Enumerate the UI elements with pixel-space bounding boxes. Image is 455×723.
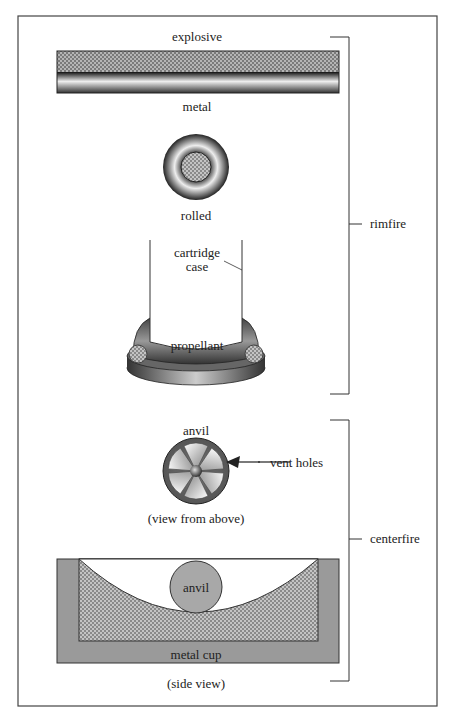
anvil-top-view bbox=[163, 438, 229, 504]
explosive-label: explosive bbox=[172, 29, 222, 44]
anvil-top-label: anvil bbox=[183, 423, 209, 438]
view-from-above-label: (view from above) bbox=[148, 511, 245, 526]
rolled-ring bbox=[163, 134, 229, 200]
side-view-label: (side view) bbox=[167, 676, 225, 691]
anvil-side-label: anvil bbox=[183, 580, 209, 595]
metal-label: metal bbox=[183, 99, 212, 114]
centerfire-label: centerfire bbox=[370, 531, 420, 546]
cartridge-case-label-line1: cartridge bbox=[174, 245, 220, 260]
rimfire-label: rimfire bbox=[370, 216, 406, 231]
primer-diagram: explosive metal rolled cartridge case pr… bbox=[0, 0, 455, 723]
vent-holes-label: vent holes bbox=[270, 455, 323, 470]
primer-strip bbox=[57, 51, 339, 93]
cartridge-case-label-line2: case bbox=[186, 259, 209, 274]
metal-cup-label: metal cup bbox=[171, 647, 222, 662]
rolled-label: rolled bbox=[181, 208, 212, 223]
propellant-label: propellant bbox=[171, 338, 224, 353]
